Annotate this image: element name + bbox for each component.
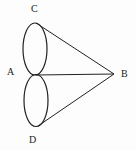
label-d: D [29,134,36,145]
upper-circle [23,23,47,75]
diagram-canvas: C A B D [0,0,136,150]
segment-cb [36,23,114,74]
label-b: B [121,68,128,79]
segment-ab [36,74,114,75]
label-c: C [31,3,38,14]
segment-db [38,74,114,126]
geometry-figure: C A B D [0,0,136,150]
label-a: A [7,66,15,77]
lower-circle [24,75,48,127]
